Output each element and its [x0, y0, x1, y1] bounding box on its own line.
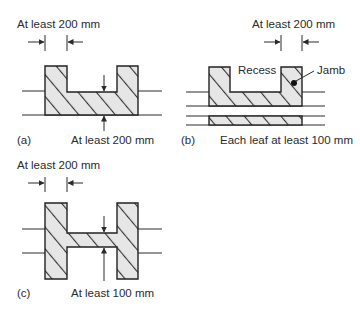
wall-recess-diagram: At least 200 mm (a) At least 200 mm At l…: [0, 0, 360, 309]
recess-label: Recess: [238, 64, 277, 76]
jamb-label: Jamb: [317, 64, 345, 76]
panel-a-tag: (a): [17, 134, 31, 146]
panel-c-bottom-dimension-label: At least 100 mm: [71, 287, 154, 299]
panel-c: At least 200 mm (c) At least 100 mm: [17, 159, 162, 299]
outer-leaf-section: [209, 116, 302, 125]
panel-a: At least 200 mm (a) At least 200 mm: [17, 18, 162, 146]
panel-b-tag: (b): [181, 134, 195, 146]
h-wall-section: [45, 203, 138, 279]
panel-a-bottom-dimension-label: At least 200 mm: [71, 134, 154, 146]
panel-c-tag: (c): [17, 287, 31, 299]
recessed-wall-section: [45, 66, 138, 115]
panel-c-top-dimension-label: At least 200 mm: [17, 159, 100, 171]
panel-a-top-dimension-label: At least 200 mm: [17, 18, 100, 30]
panel-b-bottom-dimension-label: Each leaf at least 100 mm: [220, 134, 353, 146]
panel-b-top-dimension-label: At least 200 mm: [252, 18, 335, 30]
panel-b: At least 200 mm Recess Jamb (b) Each lea…: [181, 18, 353, 146]
